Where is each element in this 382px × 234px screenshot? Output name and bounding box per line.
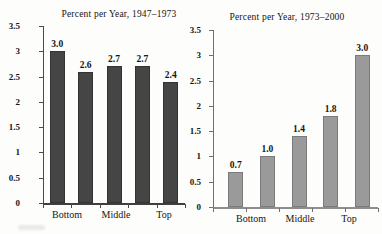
bar-value-label: 1.4 (284, 123, 314, 135)
x-tick (279, 208, 280, 212)
y-tick (209, 106, 213, 107)
x-tick (378, 208, 379, 212)
chart-title-1973-2000: Percent per Year, 1973–2000 (197, 11, 377, 23)
y-tick-label: 1.5 (0, 125, 201, 137)
y-tick-label: 0.5 (0, 176, 201, 188)
y-tick (209, 81, 213, 82)
y-tick-label: 0 (0, 201, 201, 213)
chart-panel-1973-2000: Percent per Year, 1973–2000 00.511.522.5… (0, 0, 382, 234)
x-category-label: Bottom (226, 213, 276, 225)
faint-caption-remnant (18, 225, 45, 230)
y-tick-label: 1 (0, 150, 201, 162)
y-tick (209, 55, 213, 56)
y-tick-label: 2.5 (0, 75, 201, 87)
bar (260, 156, 275, 207)
y-tick-label: 2 (0, 100, 201, 112)
bar (355, 55, 370, 207)
bar-value-label: 1.0 (252, 143, 282, 155)
y-tick (209, 182, 213, 183)
x-axis-line (213, 207, 378, 209)
bar (323, 116, 338, 207)
bar-value-label: 3.0 (347, 42, 377, 54)
y-tick-label: 3.5 (0, 24, 201, 36)
x-tick (345, 208, 346, 212)
x-tick (213, 208, 214, 212)
bar (228, 172, 243, 207)
double-bar-chart-figure: Percent per Year, 1947–1973 00.511.522.5… (0, 0, 382, 234)
y-tick-label: 3 (0, 49, 201, 61)
x-tick (246, 208, 247, 212)
y-axis-line (213, 30, 214, 207)
y-tick (209, 156, 213, 157)
x-category-label: Top (324, 213, 374, 225)
bar-value-label: 1.8 (316, 103, 346, 115)
y-tick (209, 30, 213, 31)
x-category-label: Middle (275, 213, 325, 225)
bar-value-label: 0.7 (221, 159, 251, 171)
bar (292, 136, 307, 207)
y-tick (209, 131, 213, 132)
x-tick (312, 208, 313, 212)
